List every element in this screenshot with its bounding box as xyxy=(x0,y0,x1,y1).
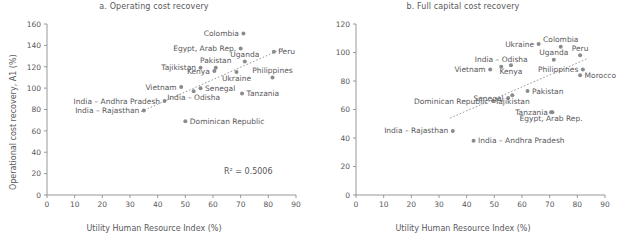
data-point-label: Peru xyxy=(278,47,295,56)
data-point-label: Peru xyxy=(572,44,589,53)
x-tick-label: 90 xyxy=(600,200,610,209)
data-point-marker xyxy=(488,68,492,72)
data-point-marker xyxy=(240,91,244,95)
data-point-marker xyxy=(472,139,476,143)
y-tick-label: 60 xyxy=(340,105,350,114)
panel-operating-cost-recovery: a. Operating cost recovery 0204060801001… xyxy=(0,0,308,237)
data-point-marker xyxy=(526,89,530,93)
data-point-label: India – Rajasthan xyxy=(75,106,139,115)
x-tick-label: 60 xyxy=(208,200,218,209)
data-point-marker xyxy=(559,45,563,49)
data-point-label: Vietnam xyxy=(145,83,176,92)
data-point-marker xyxy=(578,53,582,57)
data-point-label: Uganda xyxy=(230,50,259,59)
data-point-marker xyxy=(270,75,274,79)
data-point-label: Kenya xyxy=(499,67,522,76)
data-point-marker xyxy=(214,66,218,70)
data-point-label: Kenya xyxy=(187,67,210,76)
y-tick-label: 80 xyxy=(31,105,41,114)
data-point-label: Tanzania xyxy=(246,89,280,98)
data-point-label: Dominican Republic xyxy=(190,117,265,126)
y-tick-label: 20 xyxy=(31,169,41,178)
data-point-label: Philippines xyxy=(252,66,293,75)
panel-full-capital-cost-recovery: b. Full capital cost recovery 0204060801… xyxy=(309,0,617,237)
figure-two-panel-scatter: a. Operating cost recovery 0204060801001… xyxy=(0,0,617,237)
data-point-label: India – Odisha xyxy=(167,93,220,102)
data-point-marker xyxy=(578,73,582,77)
x-tick-label: 70 xyxy=(545,200,555,209)
panel-a-plot: 0204060801001201401600102030405060708090… xyxy=(0,0,308,237)
data-point-label: Egypt, Arab Rep. xyxy=(173,44,236,53)
x-tick-label: 0 xyxy=(354,200,359,209)
x-tick-label: 80 xyxy=(264,200,274,209)
data-point-label: India – Odisha xyxy=(475,55,528,64)
x-tick-label: 60 xyxy=(517,200,527,209)
y-tick-label: 140 xyxy=(27,41,42,50)
x-tick-label: 30 xyxy=(125,200,135,209)
x-tick-label: 20 xyxy=(98,200,108,209)
y-tick-label: 100 xyxy=(336,48,351,57)
data-point-marker xyxy=(241,32,245,36)
data-point-label: India – Andhra Pradesh xyxy=(74,97,161,106)
data-point-label: Tajikistan xyxy=(494,97,530,106)
data-point-marker xyxy=(552,58,556,62)
y-tick-label: 100 xyxy=(27,84,42,93)
data-point-label: Ukraine xyxy=(505,40,534,49)
x-tick-label: 40 xyxy=(462,200,472,209)
data-point-label: India – Rajasthan xyxy=(384,126,448,135)
data-point-label: Uganda xyxy=(539,48,568,57)
y-tick-label: 0 xyxy=(345,191,350,200)
x-tick-label: 50 xyxy=(181,200,191,209)
x-tick-label: 30 xyxy=(434,200,444,209)
x-tick-label: 50 xyxy=(490,200,500,209)
y-tick-label: 80 xyxy=(340,77,350,86)
panel-b-plot: 0204060801001200102030405060708090India … xyxy=(309,0,617,237)
data-point-label: Pakistan xyxy=(200,56,232,65)
x-tick-label: 0 xyxy=(45,200,50,209)
y-tick-label: 120 xyxy=(336,20,351,29)
x-tick-label: 10 xyxy=(379,200,389,209)
x-tick-label: 70 xyxy=(236,200,246,209)
x-tick-label: 40 xyxy=(153,200,163,209)
data-point-marker xyxy=(199,86,203,90)
y-tick-label: 160 xyxy=(27,20,42,29)
y-tick-label: 40 xyxy=(340,134,350,143)
data-point-label: Senegal xyxy=(205,84,235,93)
y-tick-label: 60 xyxy=(31,127,41,136)
x-tick-label: 90 xyxy=(291,200,301,209)
y-tick-label: 20 xyxy=(340,162,350,171)
data-point-label: Ukraine xyxy=(222,74,251,83)
data-point-marker xyxy=(183,119,187,123)
panel-a-y-axis-title: Operational cost recovery, A1 (%) xyxy=(9,54,18,190)
data-point-label: Pakistan xyxy=(532,87,564,96)
y-tick-label: 120 xyxy=(27,63,42,72)
data-point-marker xyxy=(163,99,167,103)
x-tick-label: 20 xyxy=(407,200,417,209)
data-point-label: Morocco xyxy=(585,71,617,80)
panel-a-x-axis-title: Utility Human Resource Index (%) xyxy=(0,224,308,233)
y-tick-label: 40 xyxy=(31,148,41,157)
data-point-label: Egypt, Arab Rep. xyxy=(520,114,583,123)
x-tick-label: 10 xyxy=(70,200,80,209)
x-tick-label: 80 xyxy=(573,200,583,209)
data-point-marker xyxy=(272,50,276,54)
panel-b-x-axis-title: Utility Human Resource Index (%) xyxy=(309,224,617,233)
data-point-label: India – Andhra Pradesh xyxy=(478,136,565,145)
y-tick-label: 0 xyxy=(36,191,41,200)
data-point-marker xyxy=(142,109,146,113)
data-point-label: Philippines xyxy=(538,65,579,74)
data-point-marker xyxy=(537,42,541,46)
data-point-marker xyxy=(243,59,247,63)
data-point-marker xyxy=(451,129,455,133)
data-point-marker xyxy=(179,85,183,89)
data-point-label: Colombia xyxy=(204,29,239,38)
panel-a-r2-annotation: R² = 0.5006 xyxy=(224,167,273,176)
data-point-label: Vietnam xyxy=(454,65,485,74)
